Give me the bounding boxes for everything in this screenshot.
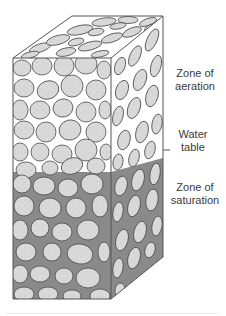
label-line: aeration — [168, 80, 222, 93]
label-line: Water — [170, 128, 216, 141]
water-table-label: Water table — [170, 128, 216, 154]
label-line: Zone of — [168, 67, 222, 80]
label-line: Zone of — [164, 181, 226, 194]
side-face — [111, 16, 164, 299]
zone-of-saturation-label: Zone of saturation — [164, 181, 226, 207]
label-line: saturation — [164, 194, 226, 207]
soil-block-diagram — [0, 0, 226, 316]
zone-of-aeration-label: Zone of aeration — [168, 67, 222, 93]
label-line: table — [170, 141, 216, 154]
bottom-divider — [6, 313, 220, 314]
front-face — [12, 54, 112, 303]
